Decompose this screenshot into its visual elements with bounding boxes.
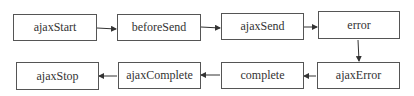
node-label: ajaxStop bbox=[37, 69, 79, 84]
node-ajaxstart: ajaxStart bbox=[13, 14, 97, 41]
node-label: ajaxError bbox=[336, 68, 381, 83]
node-label: error bbox=[347, 18, 370, 33]
node-label: beforeSend bbox=[132, 20, 187, 35]
node-beforesend: beforeSend bbox=[117, 14, 201, 41]
arrow-ajaxstart-beforesend bbox=[97, 28, 116, 29]
node-label: ajaxComplete bbox=[126, 68, 193, 83]
node-error: error bbox=[318, 11, 400, 39]
node-ajaxcomplete: ajaxComplete bbox=[118, 62, 201, 89]
node-complete: complete bbox=[221, 62, 304, 89]
node-ajaxsend: ajaxSend bbox=[221, 13, 304, 40]
arrow-beforesend-ajaxsend bbox=[201, 27, 220, 28]
node-label: complete bbox=[241, 68, 285, 83]
node-label: ajaxStart bbox=[34, 20, 77, 35]
node-ajaxerror: ajaxError bbox=[317, 62, 400, 89]
arrow-error-ajaxerror bbox=[358, 40, 359, 61]
node-ajaxstop: ajaxStop bbox=[16, 62, 99, 90]
node-label: ajaxSend bbox=[241, 19, 285, 34]
